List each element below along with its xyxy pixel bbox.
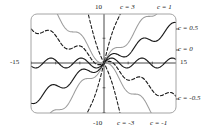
- axis-tick-label-x-left: -15: [10, 59, 19, 66]
- curve-label-c-m0p5: c = -0.5: [178, 95, 200, 102]
- axis-tick-label-x-right: 15: [180, 59, 187, 66]
- curve-label-c-m1: c = -1: [150, 120, 167, 127]
- curve-label-c-0p5: c = 0.5: [178, 25, 198, 32]
- axis-tick-label-y-bottom: -10: [93, 120, 102, 127]
- curve-label-c-3: c = 3: [120, 4, 135, 11]
- plot-canvas: [0, 0, 214, 133]
- curve-label-c-0: c = 0: [178, 46, 193, 53]
- curve-label-c-1: c = 1: [157, 4, 172, 11]
- plot-figure: c = 3c = 1c = 0.5c = 0c = -0.5c = -3c = …: [0, 0, 214, 133]
- curve-label-c-m3: c = -3: [117, 120, 134, 127]
- axis-tick-label-y-top: 10: [95, 4, 102, 11]
